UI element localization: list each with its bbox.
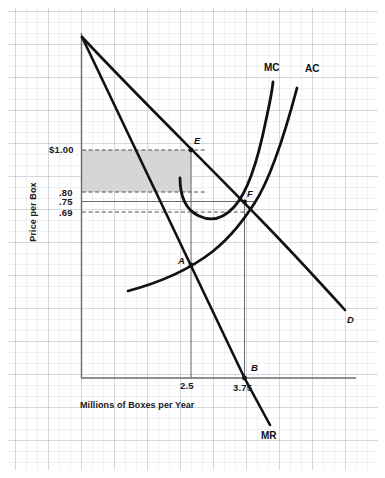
point-label-e: E [194,135,200,146]
point-label-f: F [247,188,253,199]
y-axis-title: Price per Box [28,167,38,257]
x-tick-label-3-75: 3.75 [233,382,252,393]
marginal-revenue-curve [82,37,270,425]
curve-label-d: D [347,314,354,325]
curve-label-ac: AC [305,63,319,74]
x-axis-title: Millions of Boxes per Year [80,400,194,410]
x-tick-label-2-5: 2.5 [180,380,194,391]
y-tick-label-1-00: $1.00 [49,144,74,155]
data-point-f [242,200,247,205]
data-point-b [242,376,247,381]
y-tick-label-0-69: .69 [59,207,73,218]
data-point-a [189,263,194,268]
y-tick-label-0-75: .75 [59,196,73,207]
point-label-a: A [178,255,185,266]
point-label-b: B [251,362,258,373]
economic-profit-rectangle [82,150,191,192]
curve-label-mc: MC [264,62,280,73]
curve-label-mr: MR [261,430,277,441]
economics-chart-figure: $1.00 .80 .75 .69 2.5 3.75 Price per Box… [0,0,385,478]
data-point-e [189,148,194,153]
